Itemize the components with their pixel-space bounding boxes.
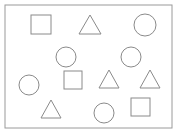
figure-container	[0, 0, 180, 136]
shapes-figure-canvas	[0, 0, 180, 136]
figure-background	[0, 0, 180, 136]
